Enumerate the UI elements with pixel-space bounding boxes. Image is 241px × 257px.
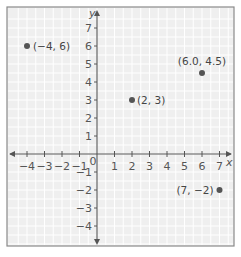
x-tick-label: 2: [129, 160, 136, 173]
coordinate-plane: xy −4−3−2−101234567−4−3−2−11234567 (−4, …: [0, 0, 241, 257]
x-tick-label: 5: [181, 160, 188, 173]
point-label: (2, 3): [137, 94, 165, 106]
y-tick-label: −2: [76, 184, 92, 197]
point-marker-icon: [24, 43, 30, 49]
y-tick-label: 7: [85, 22, 92, 35]
x-tick-label: 3: [146, 160, 153, 173]
point-label: (−4, 6): [33, 40, 70, 52]
x-tick-label: 6: [199, 160, 206, 173]
y-tick-label: −3: [76, 202, 92, 215]
x-tick-label: 7: [216, 160, 223, 173]
point-label: (7, −2): [176, 184, 213, 196]
y-axis-label: y: [88, 7, 96, 20]
x-tick-label: 4: [164, 160, 171, 173]
point-marker-icon: [129, 97, 135, 103]
point-label: (6.0, 4.5): [178, 55, 226, 67]
point-marker-icon: [199, 70, 205, 76]
y-tick-label: −1: [76, 166, 92, 179]
x-axis-label: x: [225, 156, 233, 169]
x-tick-label: −3: [36, 160, 52, 173]
x-tick-label: −4: [19, 160, 35, 173]
y-tick-label: 4: [85, 76, 92, 89]
x-tick-label: 1: [111, 160, 118, 173]
y-tick-label: −4: [76, 220, 92, 233]
y-tick-label: 3: [85, 94, 92, 107]
y-tick-label: 6: [85, 40, 92, 53]
y-tick-label: 2: [85, 112, 92, 125]
y-tick-label: 1: [85, 130, 92, 143]
point-marker-icon: [217, 187, 223, 193]
y-tick-label: 5: [85, 58, 92, 71]
x-tick-label: −2: [54, 160, 70, 173]
